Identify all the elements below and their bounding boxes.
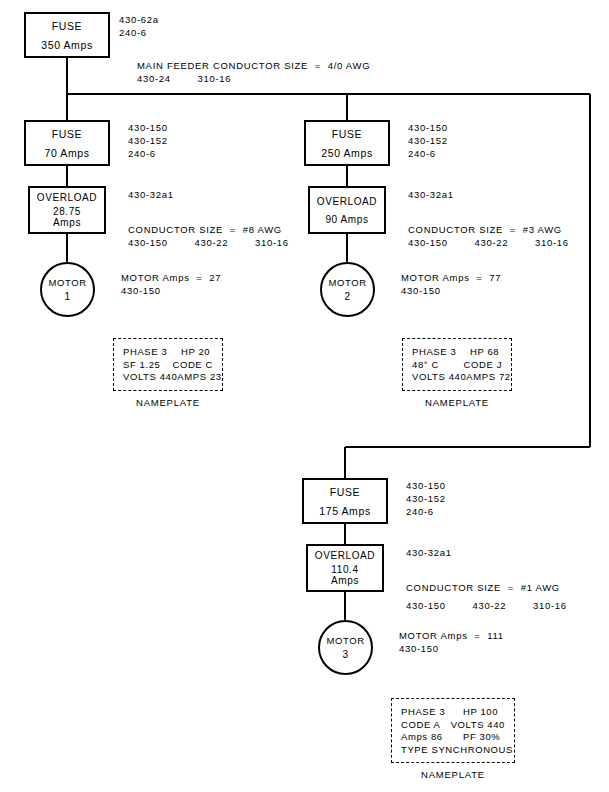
branch1-motor[interactable]: MOTOR 1	[40, 262, 95, 317]
branch2-motor-label: MOTOR	[328, 277, 366, 288]
branch3-nameplate-caption: NAMEPLATE	[391, 769, 515, 780]
branch2-nameplate: PHASE 3 HP 68 48° C CODE J VOLTS 440 AMP…	[402, 338, 512, 391]
branch2-overload-value: 90 Amps	[325, 214, 368, 225]
branch2-nameplate-group: PHASE 3 HP 68 48° C CODE J VOLTS 440 AMP…	[402, 338, 512, 408]
branch3-fuse-code-3: 240-6	[406, 505, 446, 518]
nameplate-row: 48° C CODE J	[412, 359, 502, 372]
nameplate-row: CODE A VOLTS 440	[401, 719, 505, 732]
branch3-overload-code: 430-32a1	[406, 546, 452, 559]
branch2-conductor-size: CONDUCTOR SIZE = #3 AWG	[408, 223, 569, 236]
branch2-overload-code: 430-32a1	[408, 188, 454, 201]
branch3-fuse-rating: 175 Amps	[319, 505, 371, 517]
branch3-conductor-codes: 430-150 430-22 310-16	[406, 599, 567, 612]
branch3-nameplate: PHASE 3 HP 100 CODE A VOLTS 440 Amps 86 …	[391, 698, 515, 763]
one-line-diagram: FUSE 350 Amps 430-62a 240-6 MAIN FEEDER …	[0, 0, 609, 792]
branch2-fuse-rating: 250 Amps	[321, 147, 373, 159]
branch2-conductor-codes: 430-150 430-22 310-16	[408, 236, 569, 249]
branch2-motor-note: MOTOR Amps = 77 430-150	[401, 271, 501, 297]
nameplate-type-row: TYPE SYNCHRONOUS	[401, 744, 505, 757]
branch1-overload-value: 28.75	[53, 206, 81, 217]
branch1-motor-label: MOTOR	[48, 277, 86, 288]
branch3-motor[interactable]: MOTOR 3	[318, 620, 373, 675]
branch1-nameplate-caption: NAMEPLATE	[113, 397, 223, 408]
branch1-overload-unit: Amps	[53, 217, 81, 228]
branch2-fuse-box[interactable]: FUSE 250 Amps	[304, 120, 390, 166]
branch3-overload-box[interactable]: OVERLOAD 110.4 Amps	[306, 544, 384, 592]
branch3-motor-code: 430-150	[399, 642, 504, 655]
nameplate-row: SF 1.25 CODE C	[123, 359, 213, 372]
branch3-motor-note: MOTOR Amps = 111 430-150	[399, 629, 504, 655]
branch1-conductor-codes: 430-150 430-22 310-16	[128, 236, 289, 249]
branch2-motor-code: 430-150	[401, 284, 501, 297]
branch1-fuse-code-1: 430-150	[128, 121, 168, 134]
branch1-nameplate-group: PHASE 3 HP 20 SF 1.25 CODE C VOLTS 440 A…	[113, 338, 223, 408]
branch3-overload-value: 110.4	[331, 564, 358, 575]
nameplate-row: PHASE 3 HP 20	[123, 346, 213, 359]
branch3-overload-unit: Amps	[331, 575, 359, 586]
branch2-conductor-note: CONDUCTOR SIZE = #3 AWG 430-150 430-22 3…	[408, 223, 569, 249]
branch1-fuse-code-3: 240-6	[128, 147, 168, 160]
nameplate-row: Amps 86 PF 30%	[401, 731, 505, 744]
branch3-motor-label: MOTOR	[326, 635, 364, 646]
main-fuse-rating: 350 Amps	[41, 39, 93, 51]
main-fuse-code-1: 430-62a	[119, 13, 159, 26]
wiring-lines	[0, 0, 609, 792]
branch2-fuse-label: FUSE	[332, 128, 362, 140]
branch1-overload-code: 430-32a1	[128, 188, 174, 201]
branch3-fuse-box[interactable]: FUSE 175 Amps	[302, 478, 388, 524]
branch1-motor-amps: MOTOR Amps = 27	[121, 271, 221, 284]
branch3-fuse-label: FUSE	[330, 486, 360, 498]
nameplate-row: PHASE 3 HP 100	[401, 706, 505, 719]
main-feeder-note: MAIN FEEDER CONDUCTOR SIZE = 4/0 AWG 430…	[137, 59, 370, 85]
branch3-conductor-note: CONDUCTOR SIZE = #1 AWG 430-150 430-22 3…	[406, 581, 567, 612]
branch1-conductor-note: CONDUCTOR SIZE = #8 AWG 430-150 430-22 3…	[128, 223, 289, 249]
branch3-fuse-code-1: 430-150	[406, 479, 446, 492]
branch3-fuse-codes: 430-150 430-152 240-6	[406, 479, 446, 518]
nameplate-row: PHASE 3 HP 68	[412, 346, 502, 359]
branch2-fuse-code-1: 430-150	[408, 121, 448, 134]
branch1-overload-label: OVERLOAD	[37, 192, 97, 203]
branch2-overload-box[interactable]: OVERLOAD 90 Amps	[308, 186, 386, 234]
branch3-overload-label: OVERLOAD	[315, 550, 375, 561]
branch3-nameplate-group: PHASE 3 HP 100 CODE A VOLTS 440 Amps 86 …	[391, 698, 515, 780]
branch2-nameplate-caption: NAMEPLATE	[402, 397, 512, 408]
branch2-motor-amps: MOTOR Amps = 77	[401, 271, 501, 284]
branch1-fuse-label: FUSE	[52, 128, 82, 140]
branch3-conductor-size: CONDUCTOR SIZE = #1 AWG	[406, 581, 567, 594]
branch1-motor-code: 430-150	[121, 284, 221, 297]
branch3-motor-amps: MOTOR Amps = 111	[399, 629, 504, 642]
main-feeder-size: MAIN FEEDER CONDUCTOR SIZE = 4/0 AWG	[137, 59, 370, 72]
branch2-fuse-code-3: 240-6	[408, 147, 448, 160]
main-fuse-label: FUSE	[52, 20, 82, 32]
main-feeder-codes: 430-24 310-16	[137, 72, 370, 85]
branch2-motor[interactable]: MOTOR 2	[320, 262, 375, 317]
branch1-fuse-code-2: 430-152	[128, 134, 168, 147]
branch1-fuse-codes: 430-150 430-152 240-6	[128, 121, 168, 160]
branch3-motor-number: 3	[342, 649, 348, 660]
main-fuse-code-2: 240-6	[119, 26, 159, 39]
branch1-fuse-rating: 70 Amps	[44, 147, 89, 159]
nameplate-row: VOLTS 440 AMPS 23	[123, 371, 213, 384]
nameplate-row: VOLTS 440 AMPS 72	[412, 371, 502, 384]
branch1-fuse-box[interactable]: FUSE 70 Amps	[24, 120, 110, 166]
branch2-overload-label: OVERLOAD	[317, 196, 377, 207]
branch2-fuse-codes: 430-150 430-152 240-6	[408, 121, 448, 160]
branch2-fuse-code-2: 430-152	[408, 134, 448, 147]
branch3-fuse-code-2: 430-152	[406, 492, 446, 505]
branch1-nameplate: PHASE 3 HP 20 SF 1.25 CODE C VOLTS 440 A…	[113, 338, 223, 391]
branch1-motor-number: 1	[64, 291, 70, 302]
branch1-overload-box[interactable]: OVERLOAD 28.75 Amps	[28, 186, 106, 234]
branch1-motor-note: MOTOR Amps = 27 430-150	[121, 271, 221, 297]
main-fuse-codes: 430-62a 240-6	[119, 13, 159, 39]
main-fuse-box[interactable]: FUSE 350 Amps	[24, 12, 110, 58]
branch2-motor-number: 2	[344, 291, 350, 302]
branch1-conductor-size: CONDUCTOR SIZE = #8 AWG	[128, 223, 289, 236]
